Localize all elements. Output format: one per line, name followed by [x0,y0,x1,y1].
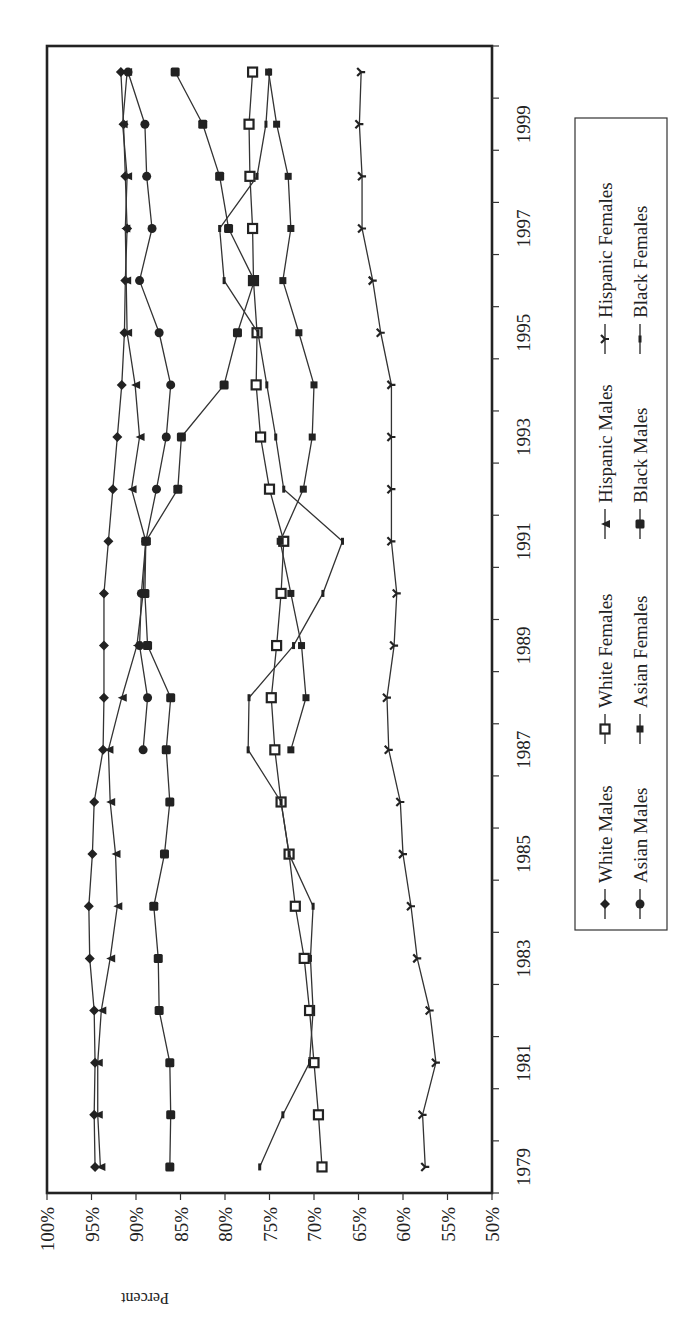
asian-males-marker [135,276,144,285]
white-males-marker [84,901,94,911]
series-hispanic-males [94,68,151,1171]
legend-label: Hispanic Females [595,182,616,318]
asian-females-marker [277,538,284,545]
black-females-marker [280,798,283,805]
black-females-marker [256,173,259,180]
asian-females-marker [295,329,302,336]
black-females-marker [341,538,344,545]
year-tick-label: 1983 [513,939,534,977]
percent-tick-label: 50% [482,1207,503,1242]
black-females-marker [312,1007,315,1014]
percent-tick-label: 75% [260,1207,281,1242]
black-males-line [145,72,254,1167]
legend-label: Black Females [630,206,651,318]
white-females-marker [245,172,254,181]
black-females-marker [218,225,221,232]
year-tick-label: 1991 [513,522,534,560]
black-males-marker [233,328,242,337]
asian-males-marker [148,224,157,233]
plot-frame [47,46,492,1193]
asian-females-marker [298,642,305,649]
legend-label: White Females [595,594,616,709]
hispanic-males-line [98,72,146,1167]
black-males-marker [220,380,229,389]
year-tick-label: 1987 [513,731,534,769]
legend-label: Asian Males [630,787,651,883]
white-females-marker [300,954,309,963]
percent-tick-label: 60% [393,1207,414,1242]
asian-males-marker [139,745,148,754]
white-females-marker [291,902,300,911]
black-females-marker [268,69,271,76]
year-tick-label: 1999 [513,105,534,143]
black-males-marker [250,276,259,285]
percent-tick-label: 90% [126,1207,147,1242]
black-females-marker [223,277,226,284]
asian-males-marker [162,433,171,442]
asian-males-marker [143,693,152,702]
percent-tick-label: 85% [171,1207,192,1242]
legend-marker-asian-males [636,900,645,909]
rotated-line-chart: 100%95%90%85%80%75%70%65%60%55%50% 19791… [0,0,681,1317]
black-males-marker [160,850,169,859]
black-females-marker [312,903,315,910]
legend-box [575,118,667,930]
legend-label: Asian Females [630,596,651,708]
black-males-marker [173,485,182,494]
black-males-marker [198,120,207,129]
black-males-marker [165,1162,174,1171]
percent-axis: 100%95%90%85%80%75%70%65%60%55%50% [37,1193,503,1251]
legend-label: Hispanic Males [595,384,616,503]
white-females-marker [252,380,261,389]
asian-males-marker [152,485,161,494]
white-males-marker [108,484,118,494]
white-males-marker [99,588,109,598]
white-females-marker [318,1162,327,1171]
black-females-marker [265,381,268,388]
white-females-marker [265,485,274,494]
white-males-marker [85,953,95,963]
white-males-marker [87,849,97,859]
white-females-marker [277,589,286,598]
black-males-marker [149,902,158,911]
year-tick-label: 1989 [513,627,534,665]
legend: White MalesWhite FemalesHispanic MalesHi… [575,118,667,930]
asian-females-marker [287,225,294,232]
legend-marker-black-females [639,336,642,343]
plot-series-layer [84,67,440,1172]
white-females-marker [248,68,257,77]
percent-tick-label: 70% [304,1207,325,1242]
black-females-marker [274,434,277,441]
black-males-marker [165,797,174,806]
hispanic-males-marker [136,433,145,441]
legend-marker-black-males [636,520,645,529]
year-tick-label: 1995 [513,314,534,352]
asian-males-marker [166,380,175,389]
black-males-marker [166,1110,175,1119]
asian-females-marker [285,173,292,180]
hispanic-females-line [359,72,436,1167]
black-males-marker [155,1006,164,1015]
black-males-marker [171,68,180,77]
asian-males-marker [142,172,151,181]
year-tick-label: 1985 [513,835,534,873]
series-white-females [245,68,327,1172]
black-females-marker [321,590,324,597]
black-females-marker [264,121,267,128]
legend-marker-asian-females [637,726,644,733]
asian-females-marker [273,121,280,128]
white-males-marker [89,797,99,807]
asian-females-marker [302,694,309,701]
black-males-marker [166,693,175,702]
asian-females-marker [287,590,294,597]
legend-label: White Males [595,785,616,883]
percent-axis-title: Percent [120,1290,169,1307]
black-males-marker [215,172,224,181]
white-females-marker [272,641,281,650]
year-axis: 1979198119831985198719891991199319951997… [492,46,534,1193]
black-males-marker [143,641,152,650]
black-males-marker [177,433,186,442]
white-males-marker [112,432,122,442]
asian-males-marker [140,120,149,129]
white-males-marker [117,380,127,390]
